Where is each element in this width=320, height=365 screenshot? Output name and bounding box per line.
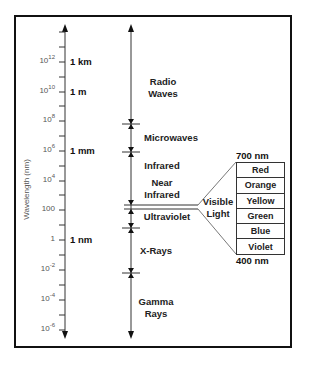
band-near-infrared: NearInfrared bbox=[137, 177, 187, 201]
tick-label-1e10: 1010 bbox=[21, 86, 55, 95]
band-infrared: Infrared bbox=[137, 160, 187, 172]
band-radio-waves: RadioWaves bbox=[133, 76, 193, 100]
tick-label-1e-2: 10-2 bbox=[21, 264, 55, 273]
color-red: Red bbox=[237, 163, 285, 178]
band-microwaves: Microwaves bbox=[137, 132, 205, 144]
tick-label-1: 1 bbox=[21, 234, 55, 243]
tick-label-1e4: 104 bbox=[21, 175, 55, 184]
color-yellow: Yellow bbox=[237, 193, 285, 208]
unit-label-nm: 1 nm bbox=[70, 234, 92, 245]
wavelength-axis bbox=[59, 24, 68, 339]
band-x-rays: X-Rays bbox=[136, 245, 176, 257]
color-blue: Blue bbox=[237, 224, 285, 239]
unit-label-km: 1 km bbox=[70, 56, 92, 67]
band-ultraviolet: Ultraviolet bbox=[137, 211, 197, 223]
tick-label-1e12: 1012 bbox=[21, 56, 55, 65]
tick-label-1e-4: 10-4 bbox=[21, 294, 55, 303]
tick-label-1e-6: 10-6 bbox=[21, 324, 55, 333]
color-violet: Violet bbox=[237, 239, 285, 254]
tick-label-100: 100 bbox=[21, 204, 55, 213]
tick-label-1e8: 108 bbox=[21, 115, 55, 124]
color-orange: Orange bbox=[237, 178, 285, 193]
visible-bottom-wavelength: 400 nm bbox=[236, 255, 269, 266]
unit-label-m: 1 m bbox=[70, 86, 86, 97]
visible-light-label: VisibleLight bbox=[198, 196, 238, 220]
band-gamma-rays: GammaRays bbox=[136, 296, 176, 320]
tick-label-1e6: 106 bbox=[21, 145, 55, 154]
y-axis-title: Wavelength (nm) bbox=[22, 150, 31, 230]
unit-label-mm: 1 mm bbox=[70, 145, 95, 156]
color-green: Green bbox=[237, 208, 285, 223]
visible-top-wavelength: 700 nm bbox=[236, 150, 269, 161]
visible-color-table: Red Orange Yellow Green Blue Violet bbox=[236, 162, 285, 255]
